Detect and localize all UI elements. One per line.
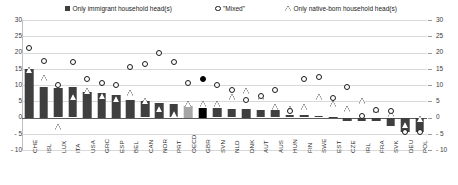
bar-bel[interactable] xyxy=(126,100,135,118)
mixed-marker-esp[interactable] xyxy=(113,82,119,88)
chart-column[interactable] xyxy=(297,20,311,150)
native-marker-prt[interactable] xyxy=(171,111,177,117)
native-marker-ita[interactable] xyxy=(70,94,76,100)
bar-aut[interactable] xyxy=(256,110,265,118)
bar-aus[interactable] xyxy=(271,110,280,117)
chart-column[interactable] xyxy=(282,20,296,150)
chart-column[interactable] xyxy=(239,20,253,150)
native-marker-svn[interactable] xyxy=(214,101,220,107)
native-marker-fin[interactable] xyxy=(301,104,307,110)
chart-column[interactable] xyxy=(123,20,137,150)
mixed-marker-usa[interactable] xyxy=(84,76,90,82)
mixed-marker-hun[interactable] xyxy=(287,108,293,114)
mixed-marker-prt[interactable] xyxy=(171,59,177,65)
chart-column[interactable] xyxy=(167,20,181,150)
native-marker-oecd[interactable] xyxy=(185,101,191,107)
native-marker-swe[interactable] xyxy=(316,94,322,100)
chart-column[interactable] xyxy=(51,20,65,150)
mixed-marker-lux[interactable] xyxy=(55,82,61,88)
native-marker-dnk[interactable] xyxy=(243,88,249,94)
chart-column[interactable] xyxy=(340,20,354,150)
bar-svn[interactable] xyxy=(213,108,222,117)
mixed-marker-can[interactable] xyxy=(142,61,148,67)
mixed-marker-ita[interactable] xyxy=(70,59,76,65)
native-marker-che[interactable] xyxy=(26,67,32,73)
native-marker-pol[interactable] xyxy=(417,116,423,122)
bar-est[interactable] xyxy=(329,117,338,118)
native-marker-usa[interactable] xyxy=(84,88,90,94)
mixed-marker-che[interactable] xyxy=(26,45,32,51)
native-marker-aus[interactable] xyxy=(272,104,278,110)
mixed-marker-irl[interactable] xyxy=(359,113,365,119)
native-marker-est[interactable] xyxy=(330,101,336,107)
native-marker-isl[interactable] xyxy=(41,75,47,81)
mixed-marker-est[interactable] xyxy=(330,95,336,101)
chart-column[interactable] xyxy=(210,20,224,150)
mixed-marker-svn[interactable] xyxy=(214,82,220,88)
chart-column[interactable] xyxy=(65,20,79,150)
bar-swe[interactable] xyxy=(314,116,323,117)
bar-svk[interactable] xyxy=(387,118,396,126)
bar-dnk[interactable] xyxy=(242,109,251,117)
bar-usa[interactable] xyxy=(83,92,92,118)
native-marker-irl[interactable] xyxy=(359,98,365,104)
chart-column[interactable] xyxy=(196,20,210,150)
chart-column[interactable] xyxy=(152,20,166,150)
mixed-marker-nor[interactable] xyxy=(156,50,162,56)
mixed-marker-svk[interactable] xyxy=(388,108,394,114)
chart-column[interactable] xyxy=(109,20,123,150)
bar-cze[interactable] xyxy=(343,118,352,121)
chart-column[interactable] xyxy=(268,20,282,150)
mixed-marker-swe[interactable] xyxy=(316,74,322,80)
bar-fin[interactable] xyxy=(300,115,309,117)
mixed-marker-isl[interactable] xyxy=(41,58,47,64)
mixed-marker-deu[interactable] xyxy=(402,129,408,135)
mixed-marker-aut[interactable] xyxy=(258,93,264,99)
chart-column[interactable] xyxy=(413,20,427,150)
bar-nld[interactable] xyxy=(227,109,236,117)
bar-ita[interactable] xyxy=(68,87,77,117)
native-marker-bel[interactable] xyxy=(127,90,133,96)
chart-column[interactable] xyxy=(36,20,50,150)
mixed-marker-fra[interactable] xyxy=(373,107,379,113)
mixed-marker-fin[interactable] xyxy=(301,76,307,82)
mixed-marker-grc[interactable] xyxy=(99,80,105,86)
chart-column[interactable] xyxy=(253,20,267,150)
mixed-marker-bel[interactable] xyxy=(127,64,133,70)
mixed-marker-gbr[interactable] xyxy=(200,76,206,82)
native-marker-grc[interactable] xyxy=(99,93,105,99)
mixed-marker-cze[interactable] xyxy=(344,84,350,90)
native-marker-deu[interactable] xyxy=(402,122,408,128)
chart-column[interactable] xyxy=(326,20,340,150)
mixed-marker-oecd[interactable] xyxy=(185,80,191,86)
bar-fra[interactable] xyxy=(372,118,381,122)
native-marker-esp[interactable] xyxy=(113,96,119,102)
chart-column[interactable] xyxy=(138,20,152,150)
native-marker-gbr[interactable] xyxy=(200,101,206,107)
native-marker-can[interactable] xyxy=(142,98,148,104)
chart-column[interactable] xyxy=(80,20,94,150)
bar-isl[interactable] xyxy=(39,87,48,118)
chart-column[interactable] xyxy=(398,20,412,150)
bar-oecd[interactable] xyxy=(184,106,193,117)
native-marker-lux[interactable] xyxy=(55,124,61,130)
native-marker-nld[interactable] xyxy=(229,94,235,100)
mixed-marker-dnk[interactable] xyxy=(243,97,249,103)
chart-column[interactable] xyxy=(355,20,369,150)
bar-lux[interactable] xyxy=(54,88,63,118)
chart-column[interactable] xyxy=(384,20,398,150)
native-marker-cze[interactable] xyxy=(344,106,350,112)
chart-column[interactable] xyxy=(225,20,239,150)
chart-column[interactable] xyxy=(22,20,36,150)
native-marker-nor[interactable] xyxy=(156,106,162,112)
mixed-marker-aus[interactable] xyxy=(272,87,278,93)
mixed-marker-nld[interactable] xyxy=(229,87,235,93)
chart-column[interactable] xyxy=(369,20,383,150)
chart-column[interactable] xyxy=(94,20,108,150)
bar-gbr[interactable] xyxy=(198,108,207,118)
mixed-marker-pol[interactable] xyxy=(417,129,423,135)
chart-column[interactable] xyxy=(311,20,325,150)
chart-column[interactable] xyxy=(181,20,195,150)
bar-che[interactable] xyxy=(25,69,34,118)
bar-hun[interactable] xyxy=(285,115,294,118)
